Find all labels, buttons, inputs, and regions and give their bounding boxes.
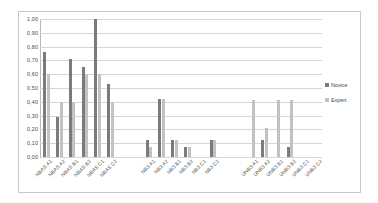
- bar: [252, 100, 255, 157]
- y-axis-tick-label: 0,70: [27, 57, 38, 63]
- bar: [43, 52, 46, 157]
- bar: [60, 102, 63, 157]
- y-axis-tick-label: 0,20: [27, 126, 38, 132]
- legend-item-label: Novice: [331, 82, 347, 88]
- bar: [85, 74, 88, 157]
- y-axis-tick-label: 0,40: [27, 99, 38, 105]
- bar: [69, 59, 72, 157]
- y-axis-tick-labels: 1,000,900,800,700,600,500,400,300,200,10…: [18, 19, 38, 157]
- y-axis-tick-label: 0,80: [27, 44, 38, 50]
- bar: [175, 140, 178, 157]
- legend-item-label: Expert: [331, 97, 347, 103]
- bar: [149, 147, 152, 157]
- bar: [287, 147, 290, 157]
- x-axis-category-labels: NBAS A1NBAS A2NBAS B1NBAS B2NBAS C1NBAS …: [40, 158, 322, 202]
- bar: [56, 117, 59, 157]
- legend-swatch-icon: [325, 83, 329, 87]
- bar: [210, 140, 213, 157]
- bar: [277, 100, 280, 157]
- bar: [265, 128, 268, 157]
- legend-swatch-icon: [325, 98, 329, 102]
- bar: [188, 147, 191, 157]
- y-axis-tick-label: 0,50: [27, 85, 38, 91]
- bar: [72, 102, 75, 157]
- y-axis-tick-label: 1,00: [27, 16, 38, 22]
- legend-item[interactable]: Expert: [325, 97, 373, 103]
- bar: [162, 99, 165, 157]
- bar: [158, 99, 161, 157]
- bar: [290, 100, 293, 157]
- y-axis-tick-label: 0,90: [27, 30, 38, 36]
- chart-legend: NoviceExpert: [325, 82, 373, 112]
- y-axis-tick-label: 0,30: [27, 113, 38, 119]
- bar: [107, 84, 110, 157]
- bar: [98, 74, 101, 157]
- bar: [171, 140, 174, 157]
- bar: [82, 67, 85, 157]
- bar: [111, 102, 114, 157]
- bars-layer: [40, 19, 322, 157]
- bar: [94, 19, 97, 157]
- legend-item[interactable]: Novice: [325, 82, 373, 88]
- bar-chart: 1,000,900,800,700,600,500,400,300,200,10…: [0, 0, 378, 203]
- bar: [261, 140, 264, 157]
- bar: [47, 74, 50, 157]
- y-axis-tick-label: 0,10: [27, 140, 38, 146]
- bar: [184, 147, 187, 157]
- bar: [213, 140, 216, 157]
- y-axis-tick-label: 0,60: [27, 71, 38, 77]
- plot-area: [40, 19, 322, 157]
- y-axis-tick-label: 0,00: [27, 154, 38, 160]
- bar: [146, 140, 149, 157]
